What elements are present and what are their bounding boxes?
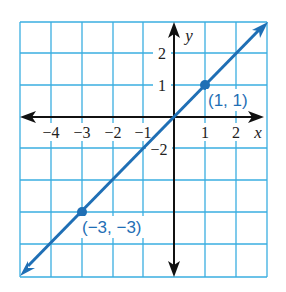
x-tick-label: −1 <box>134 124 151 141</box>
x-tick-label: −3 <box>73 124 90 141</box>
y-tick-label: 2 <box>158 45 166 62</box>
point-neg3-neg3 <box>77 207 87 217</box>
y-tick-label: −2 <box>150 141 167 158</box>
point-1-1 <box>200 80 210 90</box>
x-tick-label: −2 <box>104 124 121 141</box>
coordinate-plane: −4 −3 −2 −1 1 2 x 2 1 −2 y (1, 1) (−3, −… <box>0 0 286 292</box>
x-tick-label: −4 <box>42 124 59 141</box>
x-axis-label: x <box>253 123 262 142</box>
x-tick-label: 1 <box>201 124 209 141</box>
x-tick-label: 2 <box>232 124 240 141</box>
y-axis-label: y <box>183 26 193 45</box>
y-tick-label: 1 <box>158 77 166 94</box>
point-label: (1, 1) <box>208 91 248 110</box>
point-label: (−3, −3) <box>82 218 142 237</box>
